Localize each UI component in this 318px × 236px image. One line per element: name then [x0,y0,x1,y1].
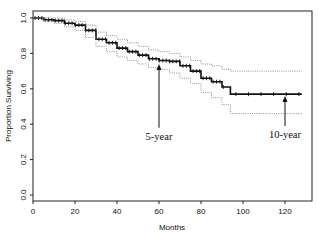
x-tick-label: 120 [278,207,292,216]
x-tick-label: 60 [155,207,164,216]
y-axis: 0.00.20.40.60.81.0 [19,12,33,201]
y-tick-label: 0.4 [19,118,28,130]
y-tick-label: 0.6 [19,83,28,95]
x-tick-label: 100 [236,207,250,216]
y-tick-label: 0.2 [19,153,28,165]
y-tick-label: 1.0 [19,12,28,24]
x-tick-label: 40 [113,207,122,216]
annotations: 5-year10-year [146,64,302,142]
x-tick-label: 20 [71,207,80,216]
confidence-band-line [33,18,302,114]
series-layer [33,16,302,114]
x-tick-label: 0 [31,207,36,216]
plot-frame [33,11,312,201]
x-tick-label: 80 [197,207,206,216]
y-axis-title: Proportion Surviving [4,70,13,142]
y-tick-label: 0.0 [19,189,28,201]
annotation-label: 10-year [269,129,302,140]
survival-chart: 0.00.20.40.60.81.0 020406080100120 5-yea… [0,0,318,236]
y-tick-label: 0.8 [19,47,28,59]
x-axis-title: Months [159,223,185,232]
survival-curve [33,18,302,94]
arrowhead-icon [157,64,162,70]
x-axis: 020406080100120 [31,201,292,216]
arrowhead-icon [283,96,288,102]
annotation-label: 5-year [146,131,173,142]
confidence-band-line [33,18,302,71]
